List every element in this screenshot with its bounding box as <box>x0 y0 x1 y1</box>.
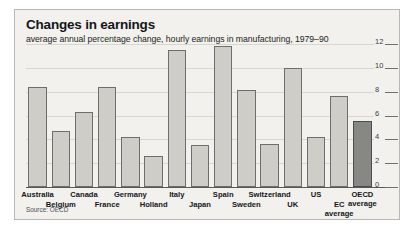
x-axis-label-uk: UK <box>287 200 298 209</box>
bar-ec-average <box>330 96 349 187</box>
x-axis-label-france: France <box>95 200 120 209</box>
x-axis-label-italy: Italy <box>169 190 184 199</box>
x-axis-label-switzerland: Switzerland <box>248 190 290 199</box>
x-axis-label-oecd-average: OECDaverage <box>348 190 377 208</box>
bar-australia <box>28 87 47 187</box>
bar-switzerland <box>260 144 279 187</box>
y-axis-tick-label: 12 <box>375 37 383 46</box>
y-axis-tick-mark <box>385 187 398 188</box>
chart-panel: Changes in earnings average annual perce… <box>14 9 400 220</box>
y-axis-tick-label: 8 <box>375 85 379 94</box>
y-axis-tick-label: 6 <box>375 109 379 118</box>
bar-sweden <box>237 90 256 187</box>
y-axis-tick-mark <box>385 92 398 93</box>
plot-area <box>26 44 374 187</box>
bar-oecd-average <box>353 121 372 187</box>
y-axis-tick-mark <box>385 44 398 45</box>
y-axis-tick-label: 10 <box>375 61 383 70</box>
bar-italy <box>168 50 187 187</box>
y-axis-tick-label: 0 <box>375 180 379 189</box>
bar-uk <box>284 68 303 187</box>
chart-figure: Changes in earnings average annual perce… <box>0 0 416 230</box>
chart-subtitle: average annual percentage change, hourly… <box>26 34 328 44</box>
y-axis-tick-mark <box>385 139 398 140</box>
bar-series <box>26 44 374 187</box>
x-axis-label-sweden: Sweden <box>232 200 261 209</box>
bar-france <box>98 87 117 187</box>
y-axis-tick-mark <box>385 68 398 69</box>
source-note: Source: OECD <box>26 206 68 213</box>
bar-us <box>307 137 326 187</box>
y-axis: 024681012 <box>374 44 398 188</box>
x-axis-label-japan: Japan <box>189 200 211 209</box>
y-axis-tick-label: 2 <box>375 156 379 165</box>
bar-belgium <box>52 131 71 187</box>
x-axis-label-us: US <box>311 190 322 199</box>
x-axis-label-spain: Spain <box>213 190 234 199</box>
bar-canada <box>75 112 94 187</box>
y-axis-tick-mark <box>385 116 398 117</box>
bar-japan <box>191 145 210 187</box>
x-axis-label-holland: Holland <box>140 200 168 209</box>
page-title: Changes in earnings <box>26 17 155 32</box>
y-axis-tick-mark <box>385 163 398 164</box>
x-axis-label-canada: Canada <box>70 190 97 199</box>
x-axis-label-germany: Germany <box>114 190 147 199</box>
y-axis-tick-label: 4 <box>375 132 379 141</box>
bar-germany <box>121 137 140 187</box>
bar-holland <box>144 156 163 187</box>
x-axis-labels: AustraliaBelgiumCanadaFranceGermanyHolla… <box>15 189 401 221</box>
x-axis-baseline <box>26 187 388 188</box>
x-axis-label-australia: Australia <box>21 190 54 199</box>
bar-spain <box>214 46 233 187</box>
